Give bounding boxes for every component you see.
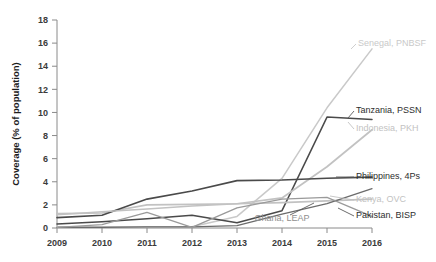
series-label-kenya: Kenya, OVC [356,194,407,204]
series-label-indonesia: Indonesia, PKH [356,123,419,133]
x-tick-label: 2014 [272,238,292,248]
leader-line [348,122,354,129]
series-label-senegal: Senegal, PNBSF [358,38,427,48]
leader-line [338,208,354,216]
x-tick-label: 2009 [47,238,67,248]
x-axis: 20092010201120122013201420152016 [47,228,382,248]
y-tick-label: 8 [43,131,48,141]
series-label-pakistan: Pakistan, BISP [356,210,416,220]
x-tick-label: 2011 [137,238,157,248]
y-tick-label: 18 [38,15,48,25]
leader-line [348,111,354,118]
leader-line [351,44,356,49]
series-line-tanzania [57,117,372,224]
y-tick-label: 0 [43,223,48,233]
series-label-philippines: Philippines, 4Ps [356,171,421,181]
series-group [57,49,372,228]
y-tick-label: 2 [43,200,48,210]
line-chart: Coverage (% of population) 0246810121416… [0,0,436,262]
leader-lines [290,44,356,216]
x-tick-label: 2010 [92,238,112,248]
y-tick-label: 6 [43,154,48,164]
x-tick-label: 2015 [317,238,337,248]
y-axis-title: Coverage (% of population) [10,62,21,186]
y-tick-label: 12 [38,85,48,95]
x-tick-label: 2012 [182,238,202,248]
x-tick-label: 2013 [227,238,247,248]
chart-plot-area: Coverage (% of population) 0246810121416… [0,0,436,262]
x-tick-label: 2016 [362,238,382,248]
y-axis-title-group: Coverage (% of population) [10,62,21,186]
y-tick-label: 4 [43,177,48,187]
series-line-kenya [57,199,372,215]
series-annotations: Senegal, PNBSFTanzania, PSSNIndonesia, P… [254,38,426,223]
y-axis: 024681012141618 [38,15,57,233]
series-label-tanzania: Tanzania, PSSN [356,105,422,115]
y-tick-label: 16 [38,38,48,48]
y-tick-label: 14 [38,61,48,71]
series-label-ghana: Ghana, LEAP [254,213,309,223]
y-tick-label: 10 [38,108,48,118]
